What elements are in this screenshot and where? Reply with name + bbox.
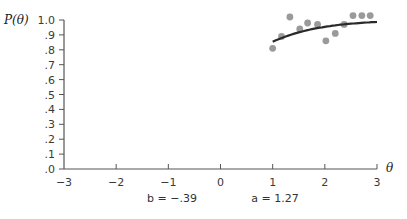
data-point xyxy=(269,45,276,52)
y-tick-label: 1.0 xyxy=(38,14,56,27)
x-tick-label: −2 xyxy=(108,176,124,189)
data-point xyxy=(322,37,329,44)
y-tick-label: .7 xyxy=(45,59,56,72)
x-tick-label: 3 xyxy=(374,176,381,189)
icc-chart: .0.1.2.3.4.5.6.7.8.91.0−3−2−10123 P(θ) θ… xyxy=(0,0,407,219)
x-tick-label: −1 xyxy=(160,176,176,189)
data-point xyxy=(350,12,357,19)
x-tick-label: −3 xyxy=(56,176,72,189)
data-point xyxy=(367,12,374,19)
data-points xyxy=(269,12,373,52)
y-tick-label: .0 xyxy=(45,163,56,176)
data-point xyxy=(332,30,339,37)
y-tick-label: .1 xyxy=(45,148,56,161)
y-tick-label: .3 xyxy=(45,118,56,131)
y-tick-label: .4 xyxy=(45,103,56,116)
y-tick-label: .9 xyxy=(45,29,56,42)
data-point xyxy=(304,20,311,27)
data-point xyxy=(358,12,365,19)
a-parameter: a = 1.27 xyxy=(251,192,298,205)
x-axis-title: θ xyxy=(386,161,394,175)
y-tick-label: .2 xyxy=(45,133,56,146)
y-axis-title: P(θ) xyxy=(3,13,29,27)
b-parameter: b = −.39 xyxy=(147,192,197,205)
data-point xyxy=(286,14,293,21)
x-tick-label: 2 xyxy=(321,176,328,189)
y-tick-label: .6 xyxy=(45,74,56,87)
y-tick-label: .8 xyxy=(45,44,56,57)
y-tick-label: .5 xyxy=(45,89,56,102)
x-tick-label: 0 xyxy=(217,176,224,189)
x-tick-label: 1 xyxy=(269,176,276,189)
